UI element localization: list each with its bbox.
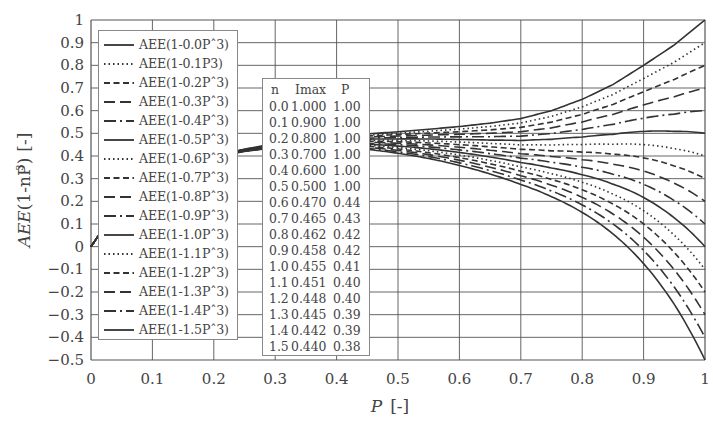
legend-label: AEE(1-1.0Pˆ3): [139, 227, 229, 242]
legend-item: AEE(1-0.4Pˆ3): [102, 111, 229, 130]
table-row: 1.20.4480.40: [269, 291, 369, 307]
x-tick-label: 0.8: [570, 370, 594, 388]
cell-imax: 0.700: [291, 147, 333, 163]
cell-imax: 0.448: [291, 291, 333, 307]
table-row: 0.50.5001.00: [269, 179, 369, 195]
cell-p: 0.43: [333, 211, 367, 227]
legend-line-swatch: [102, 325, 136, 335]
legend-item: AEE(1-0.6Pˆ3): [102, 149, 229, 168]
cell-p: 1.00: [333, 131, 367, 147]
x-tick-label: 0.4: [325, 370, 349, 388]
cell-p: 0.39: [333, 323, 367, 339]
legend-item: AEE(1-1.1Pˆ3): [102, 244, 229, 263]
legend-label: AEE(1-0.0Pˆ3): [139, 37, 229, 52]
legend-line-swatch: [102, 59, 136, 69]
table-row: 0.30.7001.00: [269, 147, 369, 163]
y-tick-label: 0.2: [60, 192, 84, 210]
table-header: n Imax P: [269, 82, 369, 98]
table-row: 1.10.4510.40: [269, 275, 369, 291]
table-row: 1.00.4550.41: [269, 259, 369, 275]
cell-n: 0.6: [269, 195, 291, 211]
cell-p: 1.00: [333, 179, 367, 195]
cell-imax: 1.000: [291, 99, 333, 115]
legend-line-swatch: [102, 211, 136, 221]
cell-n: 1.5: [269, 339, 291, 355]
cell-n: 0.9: [269, 243, 291, 259]
legend-line-swatch: [102, 306, 136, 316]
table-row: 0.70.4650.43: [269, 211, 369, 227]
cell-n: 0.1: [269, 115, 291, 131]
cell-imax: 0.445: [291, 307, 333, 323]
legend-line-swatch: [102, 154, 136, 164]
cell-imax: 0.455: [291, 259, 333, 275]
legend-item: AEE(1-1.4Pˆ3): [102, 301, 229, 320]
table-row: 1.40.4420.39: [269, 323, 369, 339]
cell-p: 0.44: [333, 195, 367, 211]
table-row: 0.01.0001.00: [269, 99, 369, 115]
legend-line-swatch: [102, 135, 136, 145]
legend-line-swatch: [102, 40, 136, 50]
cell-imax: 0.458: [291, 243, 333, 259]
legend-line-swatch: [102, 249, 136, 259]
cell-n: 0.5: [269, 179, 291, 195]
legend-line-swatch: [102, 230, 136, 240]
cell-imax: 0.500: [291, 179, 333, 195]
x-axis-title: P[-]: [370, 396, 409, 416]
cell-n: 1.1: [269, 275, 291, 291]
chart-legend: AEE(1-0.0Pˆ3)AEE(1-0.1P3)AEE(1-0.2Pˆ3)AE…: [98, 30, 238, 340]
x-tick-label: 0: [86, 370, 96, 388]
legend-item: AEE(1-0.7Pˆ3): [102, 168, 229, 187]
cell-imax: 0.600: [291, 163, 333, 179]
legend-line-swatch: [102, 97, 136, 107]
y-tick-label: −0.5: [48, 351, 84, 369]
legend-item: AEE(1-0.9Pˆ3): [102, 206, 229, 225]
legend-line-swatch: [102, 287, 136, 297]
legend-item: AEE(1-0.0Pˆ3): [102, 35, 229, 54]
cell-imax: 0.451: [291, 275, 333, 291]
legend-label: AEE(1-0.1P3): [139, 56, 223, 71]
cell-imax: 0.800: [291, 131, 333, 147]
legend-item: AEE(1-1.5Pˆ3): [102, 320, 229, 339]
legend-item: AEE(1-0.8Pˆ3): [102, 187, 229, 206]
y-tick-label: −0.4: [48, 328, 84, 346]
legend-label: AEE(1-1.2Pˆ3): [139, 265, 229, 280]
y-tick-label: 1: [74, 11, 84, 29]
x-tick-label: 1: [700, 370, 710, 388]
y-tick-label: −0.3: [48, 306, 84, 324]
header-imax: Imax: [291, 82, 333, 98]
cell-n: 0.7: [269, 211, 291, 227]
cell-p: 0.38: [333, 339, 367, 355]
x-tick-label: 0.5: [386, 370, 410, 388]
legend-label: AEE(1-0.7Pˆ3): [139, 170, 229, 185]
legend-label: AEE(1-1.5Pˆ3): [139, 322, 229, 337]
cell-imax: 0.465: [291, 211, 333, 227]
y-tick-label: −0.2: [48, 283, 84, 301]
y-tick-label: 0.1: [60, 215, 84, 233]
imax-annotation-table: n Imax P 0.01.0001.000.10.9001.000.20.80…: [262, 78, 370, 356]
cell-p: 0.39: [333, 307, 367, 323]
cell-imax: 0.462: [291, 227, 333, 243]
x-tick-label: 0.6: [447, 370, 471, 388]
cell-p: 0.42: [333, 243, 367, 259]
y-tick-label: 0.9: [60, 34, 84, 52]
cell-imax: 0.470: [291, 195, 333, 211]
header-n: n: [269, 82, 291, 98]
legend-label: AEE(1-1.1Pˆ3): [139, 246, 229, 261]
legend-label: AEE(1-1.3Pˆ3): [139, 284, 229, 299]
cell-n: 0.2: [269, 131, 291, 147]
cell-p: 1.00: [333, 99, 367, 115]
y-tick-label: −0.1: [48, 260, 84, 278]
legend-line-swatch: [102, 268, 136, 278]
legend-label: AEE(1-0.3Pˆ3): [139, 94, 229, 109]
x-tick-label: 0.9: [632, 370, 656, 388]
legend-label: AEE(1-0.2Pˆ3): [139, 75, 229, 90]
legend-line-swatch: [102, 173, 136, 183]
y-tick-label: 0.5: [60, 124, 84, 142]
legend-label: AEE(1-1.4Pˆ3): [139, 303, 229, 318]
x-tick-label: 0.3: [263, 370, 287, 388]
cell-imax: 0.442: [291, 323, 333, 339]
table-row: 1.30.4450.39: [269, 307, 369, 323]
legend-item: AEE(1-0.1P3): [102, 54, 223, 73]
cell-n: 1.4: [269, 323, 291, 339]
table-row: 0.40.6001.00: [269, 163, 369, 179]
